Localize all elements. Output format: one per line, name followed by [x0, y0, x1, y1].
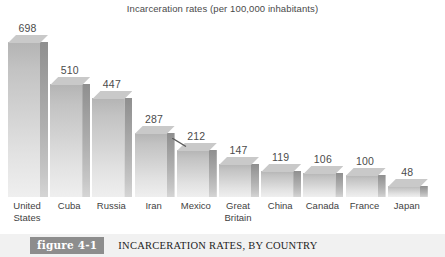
chart-title: Incarceration rates (per 100,000 inhabit… — [0, 3, 445, 14]
bar-group: 447 — [91, 14, 132, 198]
bar-side-face — [82, 84, 90, 197]
bar-value-label: 106 — [302, 153, 343, 165]
bar-group: 147 — [218, 14, 259, 198]
incarceration-rates-figure: Incarceration rates (per 100,000 inhabit… — [0, 0, 445, 257]
bar-front-face — [50, 84, 82, 197]
bar — [8, 42, 48, 197]
figure-caption: figure 4-1 INCARCERATION RATES, BY COUNT… — [0, 234, 445, 257]
category-label-line: France — [343, 200, 387, 212]
bar — [346, 175, 386, 197]
annotation-leader-line — [172, 138, 187, 147]
category-label: France — [343, 200, 387, 212]
bar-front-face — [177, 150, 209, 197]
category-label: Iran — [132, 200, 176, 212]
bar-value-label: 510 — [49, 64, 90, 76]
category-label-line: Canada — [300, 200, 344, 212]
category-label: Russia — [89, 200, 133, 212]
category-label: Mexico — [174, 200, 218, 212]
bar-group: 510 — [49, 14, 90, 198]
bar-group: 119 — [260, 14, 301, 198]
bar-group: 48 — [387, 14, 428, 198]
bar-front-face — [261, 171, 293, 197]
bar-front-face — [92, 98, 124, 197]
bar-value-label: 287 — [134, 113, 175, 125]
bar — [219, 164, 259, 197]
bar-side-face — [420, 186, 428, 197]
category-axis-labels: UnitedStatesCubaRussiaIranMexicoGreatBri… — [0, 200, 445, 228]
bar-value-label: 119 — [260, 151, 301, 163]
bar-side-face — [293, 171, 301, 197]
category-label-line: Japan — [385, 200, 429, 212]
bar — [50, 84, 90, 197]
bar-group: 100 — [345, 14, 386, 198]
bar-side-face — [40, 42, 48, 197]
category-label-line: Iran — [132, 200, 176, 212]
figure-number-badge: figure 4-1 — [30, 237, 104, 254]
category-label-line: Great — [216, 200, 260, 212]
bar — [303, 173, 343, 197]
category-label: Cuba — [47, 200, 91, 212]
bar-side-face — [124, 98, 132, 197]
category-label: GreatBritain — [216, 200, 260, 223]
bar — [261, 171, 301, 197]
figure-caption-text: INCARCERATION RATES, BY COUNTRY — [118, 240, 317, 251]
bar-group: 212 — [176, 14, 217, 198]
bar — [135, 133, 175, 197]
category-label: Japan — [385, 200, 429, 212]
bar-front-face — [8, 42, 40, 197]
bar-front-face — [219, 164, 251, 197]
bar — [92, 98, 132, 197]
bar-front-face — [135, 133, 167, 197]
bar-side-face — [209, 150, 217, 197]
bar-front-face — [346, 175, 378, 197]
category-label-line: States — [5, 212, 49, 224]
bar-group: 698 — [7, 14, 48, 198]
category-label-line: Mexico — [174, 200, 218, 212]
bar-front-face — [303, 173, 335, 197]
category-label-line: Britain — [216, 212, 260, 224]
category-label-line: Cuba — [47, 200, 91, 212]
bar-side-face — [335, 173, 343, 197]
bar-front-face — [388, 186, 420, 197]
bar-side-face — [378, 175, 386, 197]
bar-value-label: 698 — [7, 22, 48, 34]
bar-group: 106 — [302, 14, 343, 198]
category-label-line: United — [5, 200, 49, 212]
bar-value-label: 48 — [387, 166, 428, 178]
bar — [177, 150, 217, 197]
bar-side-face — [251, 164, 259, 197]
category-label: Canada — [300, 200, 344, 212]
bar-value-label: 147 — [218, 144, 259, 156]
chart-plot-area: 69851044728721214711910610048 — [0, 14, 445, 198]
bar-value-label: 447 — [91, 78, 132, 90]
category-label-line: Russia — [89, 200, 133, 212]
bar-value-label: 100 — [345, 155, 386, 167]
bar — [388, 186, 428, 197]
bar-group: 287 — [134, 14, 175, 198]
category-label: UnitedStates — [5, 200, 49, 223]
category-label-line: China — [258, 200, 302, 212]
category-label: China — [258, 200, 302, 212]
